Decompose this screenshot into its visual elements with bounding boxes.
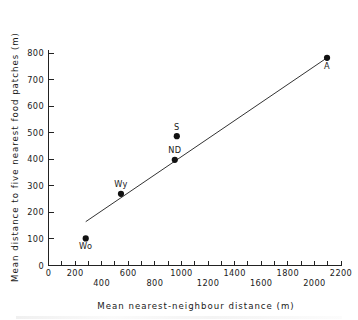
data-point-label: A xyxy=(324,61,330,71)
data-point-marker xyxy=(118,191,124,197)
y-tick-label: 400 xyxy=(27,154,44,164)
y-tick-label: 200 xyxy=(27,207,44,217)
y-tick-group: 1002003004005006007008000 xyxy=(27,48,53,271)
x-tick-label: 0 xyxy=(46,268,52,278)
scatter-plot-figure: 1002003004005006007008000 02006001000140… xyxy=(0,0,358,320)
y-tick-label: 600 xyxy=(27,101,44,111)
x-tick-label: 1800 xyxy=(277,268,299,278)
x-tick-label: 1400 xyxy=(223,268,245,278)
chart-canvas: 1002003004005006007008000 02006001000140… xyxy=(0,0,358,320)
data-point-group: WoWyNDSA xyxy=(79,55,330,252)
fit-line-group xyxy=(86,58,327,222)
y-tick-label: 500 xyxy=(27,128,44,138)
data-point-label: Wo xyxy=(79,241,92,251)
data-point-marker xyxy=(174,133,180,139)
x-tick-label: 1600 xyxy=(250,278,272,288)
y-tick-label: 100 xyxy=(27,234,44,244)
data-point-marker xyxy=(172,157,178,163)
x-tick-label: 2000 xyxy=(303,278,325,288)
x-tick-label: 800 xyxy=(146,278,163,288)
data-point-label: Wy xyxy=(114,179,127,189)
regression-line xyxy=(86,58,327,222)
y-tick-label: 800 xyxy=(27,48,44,58)
x-tick-label: 400 xyxy=(93,278,110,288)
data-point-label: ND xyxy=(168,145,181,155)
y-origin-label: 0 xyxy=(38,261,44,271)
x-tick-label: 1000 xyxy=(170,268,192,278)
data-point-label: S xyxy=(174,122,180,132)
axes-group xyxy=(49,50,342,266)
x-tick-label: 1200 xyxy=(197,278,219,288)
x-tick-label: 200 xyxy=(67,268,84,278)
x-tick-label: 600 xyxy=(120,268,137,278)
y-axis-title: Mean distance to five nearest food patch… xyxy=(10,32,20,282)
x-axis-title: Mean nearest-neighbour distance (m) xyxy=(97,301,294,311)
y-tick-label: 700 xyxy=(27,75,44,85)
x-tick-group: 0200600100014001800220040080012001600200… xyxy=(46,261,353,289)
page-edge-artifact xyxy=(16,316,342,319)
y-tick-label: 300 xyxy=(27,181,44,191)
x-tick-label: 2200 xyxy=(330,268,352,278)
